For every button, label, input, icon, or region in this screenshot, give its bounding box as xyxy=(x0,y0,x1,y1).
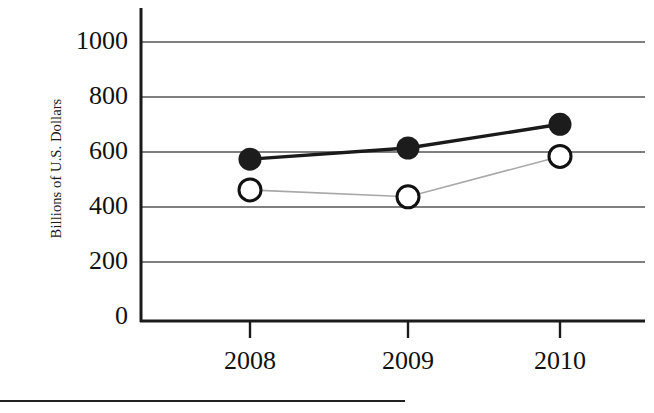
x-tick-label-2008: 2008 xyxy=(180,348,320,374)
line-chart-figure: Billions of U.S. Dollars 1000 800 600 40… xyxy=(0,0,654,413)
x-tick-label-2009: 2009 xyxy=(338,348,478,374)
x-tick-label-2010: 2010 xyxy=(490,348,630,374)
x-axis-tick-labels: 2008 2009 2010 xyxy=(0,0,654,413)
